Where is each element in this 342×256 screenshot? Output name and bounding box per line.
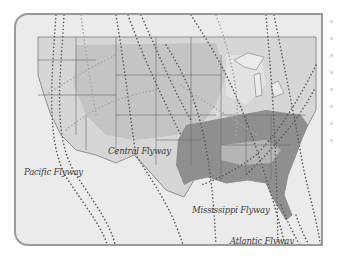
label-atlantic-flyway: Atlantic Flyway [230,236,294,246]
margin-marks [329,20,335,200]
label-central-flyway: Central Flyway [108,146,171,156]
map-frame: Pacific Flyway Central Flyway Mississipp… [14,13,323,246]
label-mississippi-flyway: Mississippi Flyway [192,205,270,215]
label-pacific-flyway: Pacific Flyway [24,167,83,177]
flyway-map [16,15,323,246]
